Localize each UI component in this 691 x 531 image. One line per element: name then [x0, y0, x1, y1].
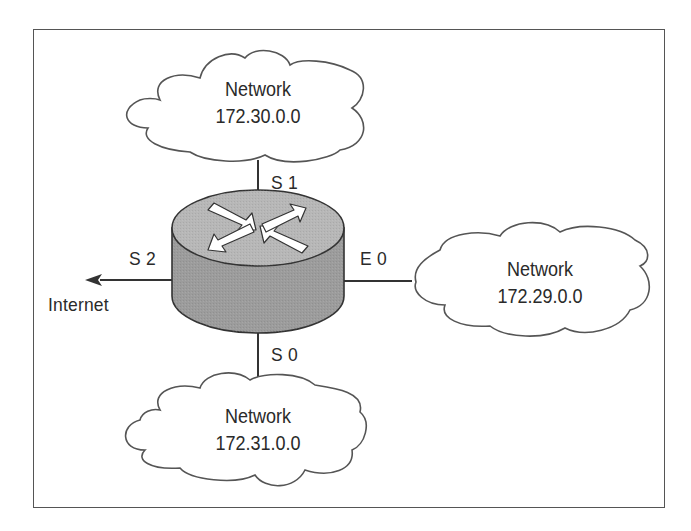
interface-e0-label: E 0 — [360, 249, 387, 270]
cloud-top-address: 172.30.0.0 — [186, 103, 330, 130]
cloud-bottom-title: Network — [186, 403, 330, 430]
cloud-bottom-label: Network 172.31.0.0 — [186, 403, 330, 457]
cloud-right-title: Network — [468, 256, 612, 283]
interface-s1-label: S 1 — [271, 173, 298, 194]
router-icon — [172, 190, 344, 333]
cloud-right-label: Network 172.29.0.0 — [468, 256, 612, 310]
internet-arrow-icon — [85, 274, 176, 286]
cloud-top-label: Network 172.30.0.0 — [186, 76, 330, 130]
cloud-top-title: Network — [186, 76, 330, 103]
cloud-right-address: 172.29.0.0 — [468, 283, 612, 310]
interface-s2-label: S 2 — [129, 249, 156, 270]
internet-label: Internet — [48, 295, 109, 316]
interface-s0-label: S 0 — [271, 345, 298, 366]
cloud-bottom-address: 172.31.0.0 — [186, 430, 330, 457]
